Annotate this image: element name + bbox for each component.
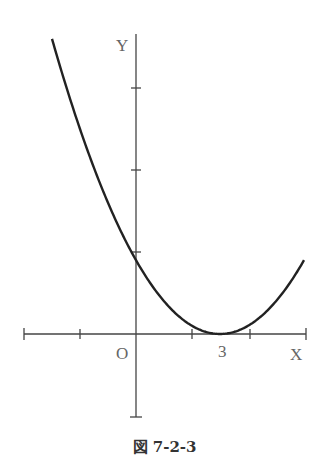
parabola-curve [52, 39, 304, 334]
origin-label: O [116, 344, 128, 363]
y-axis-label: Y [116, 36, 128, 55]
figure-caption: 図 7-2-3 [0, 435, 329, 456]
x-axis-label: X [290, 345, 302, 364]
parabola-chart: Y O 3 X [0, 0, 329, 473]
axes [24, 34, 306, 417]
vertex-x-label: 3 [218, 342, 227, 361]
